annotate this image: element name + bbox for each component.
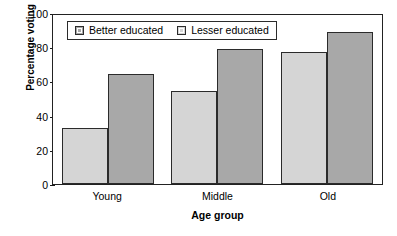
x-tick-label-middle: Middle	[170, 190, 266, 202]
x-axis-ticks: Young Middle Old	[52, 190, 383, 202]
y-tick-mark	[50, 185, 55, 186]
y-tick-label: 80	[18, 43, 48, 53]
y-axis-ticks: 100 80 60 40 20 0	[18, 0, 48, 236]
bar-young-lesser-educated	[62, 128, 108, 184]
bar-old-lesser-educated	[281, 52, 327, 184]
bar-old-better-educated	[327, 32, 373, 184]
legend-label: Better educated	[89, 24, 163, 36]
light-gray-swatch-icon	[177, 26, 186, 35]
plot-area: Better educated Lesser educated	[52, 14, 383, 185]
bar-young-better-educated	[108, 74, 154, 184]
y-tick-label: 20	[18, 146, 48, 156]
legend-label: Lesser educated	[191, 24, 269, 36]
y-tick-label: 0	[18, 180, 48, 190]
legend-entry-lesser-educated: Lesser educated	[177, 24, 269, 36]
bar-chart-figure: Percentage voting 100 80 60 40 20 0	[0, 0, 397, 236]
y-tick-label: 40	[18, 112, 48, 122]
x-axis-title: Age group	[52, 209, 383, 221]
bar-group-old	[279, 15, 374, 184]
legend-entry-better-educated: Better educated	[75, 24, 163, 36]
x-tick-label-young: Young	[59, 190, 155, 202]
bar-series-container	[53, 15, 382, 184]
bar-group-middle	[170, 15, 265, 184]
dark-gray-swatch-icon	[75, 26, 84, 35]
bar-middle-lesser-educated	[171, 91, 217, 184]
x-tick-label-old: Old	[280, 190, 376, 202]
bar-group-young	[60, 15, 155, 184]
y-tick-label: 60	[18, 77, 48, 87]
bar-middle-better-educated	[217, 49, 263, 184]
legend: Better educated Lesser educated	[67, 21, 277, 40]
y-tick-label: 100	[18, 9, 48, 19]
